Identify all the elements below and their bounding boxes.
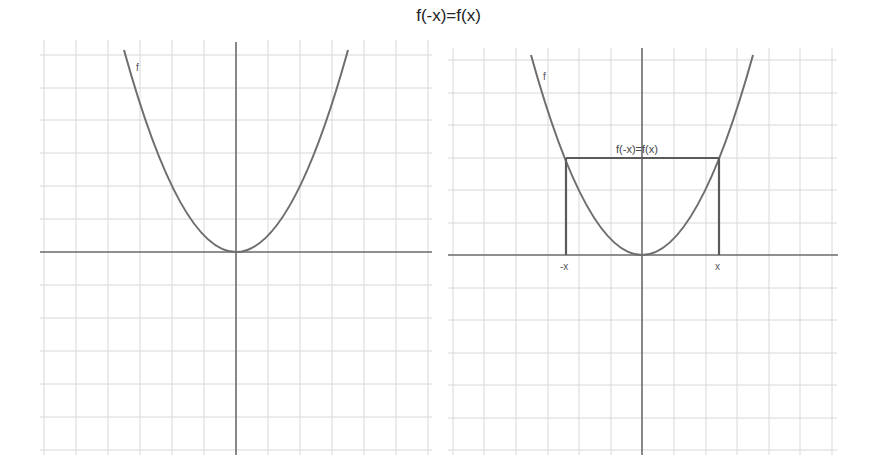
right-graph: f f(-x)=f(x) -x x (448, 48, 838, 455)
right-curve-label: f (543, 71, 546, 82)
figure-canvas: f (0, 0, 879, 462)
neg-x-label: -x (560, 261, 568, 272)
x-label: x (715, 261, 720, 272)
segment-label: f(-x)=f(x) (616, 143, 658, 155)
left-curve-label: f (136, 62, 139, 73)
left-graph: f (40, 40, 432, 455)
